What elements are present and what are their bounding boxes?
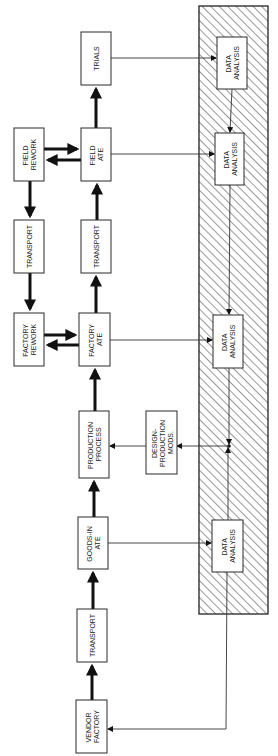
factory-rework-label: FACTORY REWORK [22,322,37,357]
production-process-box: PRODUCTION PROCESS [79,411,109,478]
transport-left-box: TRANSPORT [14,220,44,273]
vendor-factory-label: VENDOR FACTORY [85,710,100,743]
data-analysis-box-3: DATA ANALYSIS [213,315,243,368]
trials-box: TRIALS [81,32,111,85]
factory-ate-box: FACTORY ATE [79,313,110,366]
factory-rework-box: FACTORY REWORK [14,313,44,366]
data-analysis-box-1: DATA ANALYSIS [217,37,247,89]
trials-label: TRIALS [93,46,100,71]
transport-left-label: TRANSPORT [26,224,33,268]
data-analysis-box-2: DATA ANALYSIS [215,133,244,185]
flow-diagram: TRIALS FIELD REWORK FIELD ATE TRANSPORT … [0,0,278,756]
transport-bottom-box: TRANSPORT [77,609,107,662]
design-production-mods-box: DESIGN- PRODUCTION MODS. [146,411,177,474]
field-ate-box: FIELD ATE [81,128,111,181]
transport-bottom-label: TRANSPORT [89,613,96,657]
vendor-factory-box: VENDOR FACTORY [76,700,107,753]
transport-right-box: TRANSPORT [81,220,111,273]
data-analysis-box-4: DATA ANALYSIS [212,520,243,572]
transport-right-label: TRANSPORT [93,224,100,268]
field-rework-box: FIELD REWORK [14,128,44,181]
goods-in-ate-box: GOODS-IN ATE [78,517,108,569]
